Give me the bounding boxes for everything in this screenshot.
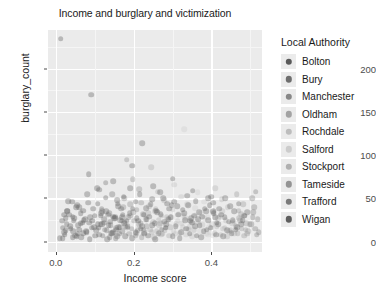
- legend-item-manchester[interactable]: Manchester: [281, 88, 354, 106]
- data-point: [172, 182, 178, 188]
- data-point: [149, 197, 155, 203]
- gridline: [48, 47, 262, 48]
- legend-title: Local Authority: [281, 36, 354, 48]
- gridline: [48, 112, 262, 113]
- data-point: [71, 218, 77, 224]
- data-point: [238, 222, 244, 228]
- legend-item-label: Salford: [302, 144, 334, 155]
- data-point: [58, 36, 64, 42]
- data-point: [118, 206, 124, 212]
- data-point: [254, 232, 260, 238]
- y-tick-mark: [44, 198, 47, 199]
- data-point: [177, 235, 183, 241]
- y-tick-mark: [44, 68, 47, 69]
- data-point: [86, 220, 92, 226]
- x-tick-mark: [134, 252, 135, 255]
- data-point: [93, 228, 99, 234]
- legend-item-label: Bury: [302, 74, 323, 85]
- data-point: [173, 223, 179, 229]
- data-point: [60, 225, 66, 231]
- data-point: [101, 216, 107, 222]
- legend-swatch-dot-icon: [281, 107, 296, 122]
- data-point: [251, 204, 257, 210]
- legend-item-wigan[interactable]: Wigan: [281, 211, 354, 229]
- data-point: [157, 190, 163, 196]
- data-point: [130, 177, 136, 183]
- data-point: [211, 210, 217, 216]
- page-title: Income and burglary and victimization: [0, 7, 290, 19]
- data-point: [114, 197, 120, 203]
- legend-item-bury[interactable]: Bury: [281, 71, 354, 89]
- data-point: [138, 200, 144, 206]
- legend-item-label: Rochdale: [302, 126, 344, 137]
- data-point: [104, 236, 110, 242]
- data-point: [206, 217, 212, 223]
- data-point: [120, 212, 126, 218]
- legend-item-trafford[interactable]: Trafford: [281, 193, 354, 211]
- gridline: [48, 155, 262, 156]
- data-point: [250, 215, 256, 221]
- data-point: [170, 176, 176, 182]
- legend-item-bolton[interactable]: Bolton: [281, 53, 354, 71]
- data-point: [182, 217, 188, 223]
- data-point: [76, 204, 82, 210]
- data-point: [139, 140, 145, 146]
- data-point: [190, 188, 196, 194]
- data-point: [222, 215, 228, 221]
- data-point: [133, 229, 139, 235]
- data-point: [97, 187, 103, 193]
- legend-item-oldham[interactable]: Oldham: [281, 106, 354, 124]
- x-axis-title: Income score: [48, 272, 262, 284]
- x-tick-mark: [56, 252, 57, 255]
- legend-swatch-dot-icon: [281, 142, 296, 157]
- data-point: [178, 229, 184, 235]
- legend-swatch-dot-icon: [281, 212, 296, 227]
- data-point: [175, 212, 181, 218]
- data-point: [199, 235, 205, 241]
- data-point: [163, 222, 169, 228]
- data-point: [85, 200, 91, 206]
- legend-item-tameside[interactable]: Tameside: [281, 176, 354, 194]
- legend-item-label: Bolton: [302, 56, 330, 67]
- y-tick-mark: [44, 112, 47, 113]
- data-point: [106, 222, 112, 228]
- data-point: [103, 180, 109, 186]
- data-point: [148, 165, 154, 171]
- data-point: [169, 203, 175, 209]
- data-point: [87, 215, 93, 221]
- data-point: [124, 157, 130, 163]
- data-point: [110, 178, 116, 184]
- data-point: [80, 230, 86, 236]
- data-point: [114, 234, 120, 240]
- y-tick-label: 0: [346, 236, 376, 247]
- data-point: [95, 201, 101, 207]
- data-point: [244, 209, 250, 215]
- legend-item-rochdale[interactable]: Rochdale: [281, 123, 354, 141]
- legend-item-salford[interactable]: Salford: [281, 141, 354, 159]
- data-point: [100, 222, 106, 228]
- data-point: [244, 231, 250, 237]
- data-point: [103, 195, 109, 201]
- data-point: [160, 196, 166, 202]
- data-point: [109, 191, 115, 197]
- data-point: [152, 221, 158, 227]
- plot-panel: [48, 30, 262, 252]
- gridline: [56, 30, 57, 252]
- gridline: [48, 90, 262, 91]
- gridline: [48, 177, 262, 178]
- data-point: [129, 235, 135, 241]
- data-point: [249, 196, 255, 202]
- legend-swatch-dot-icon: [281, 89, 296, 104]
- data-point: [192, 223, 198, 229]
- data-point: [185, 203, 191, 209]
- legend: Local Authority BoltonBuryManchesterOldh…: [281, 36, 354, 228]
- data-point: [122, 234, 128, 240]
- data-point: [151, 184, 157, 190]
- y-tick-mark: [44, 155, 47, 156]
- legend-item-label: Oldham: [302, 109, 337, 120]
- data-point: [104, 209, 110, 215]
- legend-item-stockport[interactable]: Stockport: [281, 158, 354, 176]
- x-tick-label: 0.0: [36, 257, 76, 268]
- data-point: [63, 216, 69, 222]
- data-point: [142, 231, 148, 237]
